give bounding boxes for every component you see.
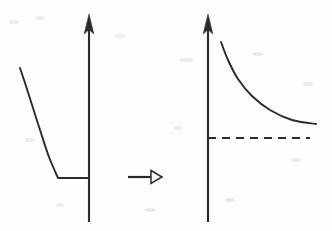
diagram-svg [0, 0, 332, 231]
transformation-arrow-head-icon [151, 171, 162, 184]
scan-texture [9, 16, 313, 212]
diagram-canvas [0, 0, 332, 231]
left-panel [20, 14, 94, 222]
right-panel [203, 14, 316, 222]
left-panel-decreasing-curve [20, 68, 89, 178]
transformation-arrow [128, 171, 162, 184]
right-panel-decaying-curve [221, 42, 316, 124]
